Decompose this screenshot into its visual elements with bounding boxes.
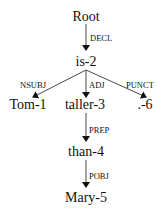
edge-label-pobj: POBJ bbox=[89, 171, 110, 181]
edge-label-nsubj: NSUBJ bbox=[20, 80, 47, 90]
edge-label-adj: ADJ bbox=[89, 80, 105, 90]
edge-label-prep: PREP bbox=[89, 125, 110, 135]
node-mary: Mary-5 bbox=[65, 190, 107, 205]
node-taller: taller-3 bbox=[65, 97, 105, 112]
edge-label-decl: DECL bbox=[90, 33, 112, 43]
dependency-tree-diagram: DECL NSUBJ ADJ PUNCT PREP POBJ Root is-2… bbox=[0, 0, 164, 214]
node-punct: .-6 bbox=[137, 97, 152, 112]
node-root: Root bbox=[72, 9, 99, 24]
edge-label-punct: PUNCT bbox=[126, 80, 155, 90]
node-is: is-2 bbox=[76, 54, 97, 69]
node-than: than-4 bbox=[68, 144, 104, 159]
node-tom: Tom-1 bbox=[9, 97, 46, 112]
